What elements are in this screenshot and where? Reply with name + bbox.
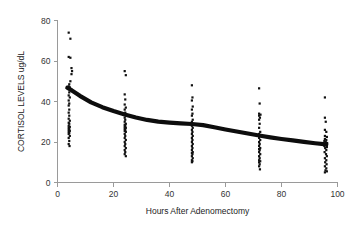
y-axis-title: CORTISOL LEVELS ug/dL xyxy=(16,51,26,152)
x-tick-label: 100 xyxy=(330,189,344,199)
data-point xyxy=(124,121,126,123)
data-point xyxy=(191,129,193,131)
data-point xyxy=(125,106,127,108)
y-tick-label: 80 xyxy=(41,16,51,26)
x-tick-label: 40 xyxy=(165,189,175,199)
trend-line xyxy=(67,88,326,145)
data-point xyxy=(68,123,70,125)
data-point xyxy=(191,137,193,139)
data-point xyxy=(191,147,193,149)
data-point xyxy=(191,133,193,135)
data-point xyxy=(68,137,70,139)
data-point xyxy=(324,135,326,137)
data-point xyxy=(68,143,70,145)
data-point xyxy=(259,149,261,151)
data-point xyxy=(325,149,327,151)
data-point xyxy=(324,165,326,167)
data-point xyxy=(192,135,194,137)
data-point xyxy=(324,96,326,98)
data-point xyxy=(325,159,327,161)
data-point xyxy=(192,143,194,145)
data-point xyxy=(259,163,261,165)
data-point xyxy=(124,141,126,143)
data-point xyxy=(68,118,70,120)
data-point xyxy=(325,153,327,155)
data-point xyxy=(124,109,126,111)
data-point xyxy=(192,127,194,129)
data-point xyxy=(191,99,193,101)
data-point xyxy=(192,157,194,159)
data-point xyxy=(68,133,70,135)
data-point xyxy=(125,155,127,157)
data-point xyxy=(124,98,126,100)
data-point xyxy=(325,163,327,165)
data-point xyxy=(191,161,193,163)
data-point xyxy=(69,96,71,98)
data-point xyxy=(124,70,126,72)
data-point xyxy=(258,115,260,117)
data-point xyxy=(324,171,326,173)
data-point xyxy=(258,155,260,157)
x-tick-label: 0 xyxy=(55,189,60,199)
scatter-points xyxy=(68,32,329,174)
data-point xyxy=(124,135,126,137)
data-point xyxy=(191,141,193,143)
data-point xyxy=(125,74,127,76)
data-point xyxy=(124,117,126,119)
data-point xyxy=(191,155,193,157)
data-point xyxy=(125,131,127,133)
data-point xyxy=(258,161,260,163)
y-tick-label: 40 xyxy=(41,97,51,107)
data-point xyxy=(68,140,70,142)
data-point xyxy=(324,147,326,149)
data-point xyxy=(70,67,72,69)
data-point xyxy=(259,131,261,133)
data-point xyxy=(125,139,127,141)
data-point xyxy=(325,131,327,133)
data-point xyxy=(258,119,260,121)
data-point xyxy=(191,145,193,147)
data-point xyxy=(124,153,126,155)
data-point xyxy=(69,135,71,137)
data-point xyxy=(124,133,126,135)
data-point xyxy=(259,143,261,145)
data-point xyxy=(124,119,126,121)
data-point xyxy=(191,84,193,86)
data-point xyxy=(326,155,328,157)
data-point xyxy=(124,103,126,105)
data-point xyxy=(326,136,328,138)
data-point xyxy=(258,151,260,153)
data-point xyxy=(259,157,261,159)
data-point xyxy=(191,115,193,117)
data-point xyxy=(324,117,326,119)
data-point xyxy=(258,87,260,89)
data-point xyxy=(191,109,193,111)
data-point xyxy=(259,139,261,141)
data-point xyxy=(191,139,193,141)
data-point xyxy=(191,153,193,155)
y-tick-label: 60 xyxy=(41,56,51,66)
x-tick-label: 60 xyxy=(221,189,231,199)
data-point xyxy=(69,38,71,40)
data-series-layer xyxy=(67,32,328,174)
data-point xyxy=(324,129,326,131)
data-point xyxy=(325,121,327,123)
data-point xyxy=(259,168,261,170)
scatter-plot-svg: 020406080020406080100Hours After Adenome… xyxy=(0,0,355,227)
data-point xyxy=(324,157,326,159)
data-point xyxy=(68,104,70,106)
y-tick-label: 20 xyxy=(41,137,51,147)
data-point xyxy=(68,32,70,34)
data-point xyxy=(68,115,70,117)
data-point xyxy=(258,165,260,167)
chart-figure: 020406080020406080100Hours After Adenome… xyxy=(0,0,355,227)
data-point xyxy=(191,96,193,98)
x-axis-title: Hours After Adenomectomy xyxy=(146,206,250,216)
data-point xyxy=(69,120,71,122)
data-point xyxy=(325,139,327,141)
data-point xyxy=(259,117,261,119)
data-point xyxy=(124,143,126,145)
data-point xyxy=(191,131,193,133)
data-point xyxy=(324,161,326,163)
data-point xyxy=(258,145,260,147)
